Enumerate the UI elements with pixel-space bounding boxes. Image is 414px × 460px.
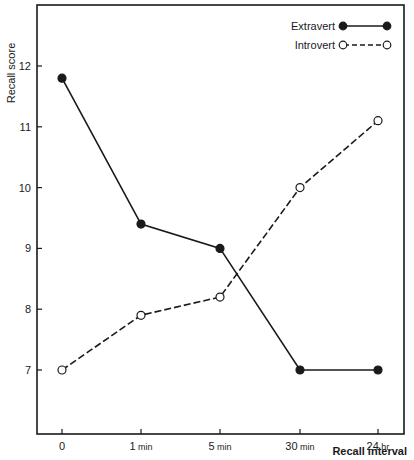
data-point	[374, 117, 382, 125]
data-point	[296, 366, 304, 374]
y-axis-title: Recall score	[5, 43, 17, 104]
series-line-extravert	[62, 78, 378, 370]
y-tick-label: 9	[25, 242, 31, 254]
x-tick-label: 30 min	[285, 440, 314, 452]
data-point	[137, 220, 145, 228]
x-tick-label: 5 min	[208, 440, 231, 452]
data-point	[58, 366, 66, 374]
legend-label: Extravert	[291, 20, 335, 32]
x-axis-title: Recall interval	[332, 445, 407, 457]
data-point	[137, 311, 145, 319]
y-tick-label: 8	[25, 303, 31, 315]
y-axis: 789101112	[19, 60, 42, 376]
recall-chart: 789101112 01 min5 min30 min24 hr Extrave…	[0, 0, 414, 460]
y-tick-label: 10	[19, 182, 31, 194]
legend-marker	[383, 41, 391, 49]
legend-marker	[383, 22, 391, 30]
x-tick-label: 1 min	[129, 440, 152, 452]
y-tick-label: 12	[19, 60, 31, 72]
data-point	[216, 293, 224, 301]
y-tick-label: 7	[25, 364, 31, 376]
data-point	[374, 366, 382, 374]
legend-label: Introvert	[295, 39, 335, 51]
legend-marker	[339, 41, 347, 49]
y-tick-label: 11	[20, 121, 31, 133]
data-point	[58, 74, 66, 82]
data-point	[216, 244, 224, 252]
legend: ExtravertIntrovert	[291, 20, 391, 51]
series-lines	[58, 74, 382, 374]
legend-marker	[339, 22, 347, 30]
x-tick-label: 0	[59, 440, 65, 452]
data-point	[296, 184, 304, 192]
